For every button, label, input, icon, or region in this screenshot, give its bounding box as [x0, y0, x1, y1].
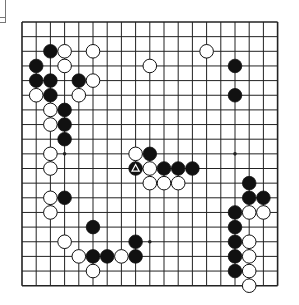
- white-stone[interactable]: [44, 147, 58, 161]
- white-stone[interactable]: [257, 206, 271, 220]
- black-stone[interactable]: [129, 162, 143, 176]
- black-stone[interactable]: [228, 206, 242, 220]
- black-stone[interactable]: [58, 118, 72, 132]
- black-stone[interactable]: [171, 162, 185, 176]
- white-stone[interactable]: [200, 45, 214, 59]
- black-stone[interactable]: [228, 250, 242, 264]
- white-stone[interactable]: [29, 88, 43, 102]
- white-stone[interactable]: [72, 250, 86, 264]
- black-stone[interactable]: [228, 264, 242, 278]
- white-stone[interactable]: [58, 45, 72, 59]
- white-stone[interactable]: [44, 103, 58, 117]
- black-stone[interactable]: [228, 235, 242, 249]
- black-stone[interactable]: [228, 220, 242, 234]
- black-stone[interactable]: [100, 250, 114, 264]
- black-stone[interactable]: [86, 250, 100, 264]
- black-stone[interactable]: [44, 45, 58, 59]
- white-stone[interactable]: [157, 176, 171, 190]
- white-stone[interactable]: [58, 59, 72, 73]
- star-point: [148, 240, 152, 244]
- black-stone[interactable]: [257, 191, 271, 205]
- white-stone[interactable]: [242, 264, 256, 278]
- white-stone[interactable]: [58, 235, 72, 249]
- white-stone[interactable]: [115, 250, 129, 264]
- black-stone[interactable]: [58, 103, 72, 117]
- white-stone[interactable]: [86, 74, 100, 88]
- black-stone[interactable]: [129, 235, 143, 249]
- white-stone[interactable]: [171, 176, 185, 190]
- black-stone[interactable]: [44, 74, 58, 88]
- star-point: [233, 152, 237, 156]
- white-stone[interactable]: [86, 264, 100, 278]
- go-board[interactable]: [0, 0, 299, 305]
- white-stone[interactable]: [44, 206, 58, 220]
- black-stone[interactable]: [228, 88, 242, 102]
- white-stone[interactable]: [129, 147, 143, 161]
- white-stone[interactable]: [44, 118, 58, 132]
- black-stone[interactable]: [186, 162, 200, 176]
- black-stone[interactable]: [29, 74, 43, 88]
- black-stone[interactable]: [143, 147, 157, 161]
- black-stone[interactable]: [228, 59, 242, 73]
- black-stone[interactable]: [242, 191, 256, 205]
- white-stone[interactable]: [242, 279, 256, 293]
- star-point: [63, 152, 67, 156]
- white-stone[interactable]: [242, 235, 256, 249]
- black-stone[interactable]: [157, 162, 171, 176]
- white-stone[interactable]: [72, 88, 86, 102]
- black-stone[interactable]: [129, 250, 143, 264]
- black-stone[interactable]: [44, 88, 58, 102]
- black-stone[interactable]: [58, 132, 72, 146]
- white-stone[interactable]: [242, 206, 256, 220]
- white-stone[interactable]: [143, 162, 157, 176]
- black-stone[interactable]: [58, 191, 72, 205]
- white-stone[interactable]: [242, 250, 256, 264]
- white-stone[interactable]: [86, 45, 100, 59]
- white-stone[interactable]: [143, 59, 157, 73]
- black-stone[interactable]: [72, 74, 86, 88]
- black-stone[interactable]: [242, 176, 256, 190]
- white-stone[interactable]: [44, 162, 58, 176]
- white-stone[interactable]: [143, 176, 157, 190]
- black-stone[interactable]: [29, 59, 43, 73]
- black-stone[interactable]: [86, 220, 100, 234]
- white-stone[interactable]: [44, 191, 58, 205]
